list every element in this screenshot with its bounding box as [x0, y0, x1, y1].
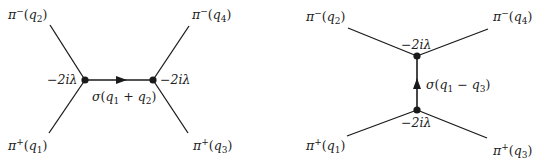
s-channel-diagram: π−(q2) π−(q4) π+(q1) π+(q3) −2iλ −2iλ σ(… — [7, 6, 232, 155]
label-pi-minus-q2: π−(q2) — [7, 6, 47, 24]
vertex-factor-right: −2iλ — [160, 72, 190, 87]
line-pi-plus-q3 — [153, 80, 188, 133]
label-pi-minus-q2: π−(q2) — [305, 8, 345, 26]
vertex-dot — [413, 106, 420, 113]
vertex-dot — [413, 52, 420, 59]
propagator-label: σ(q1 − q3) — [426, 77, 490, 94]
arrow-icon — [413, 78, 421, 89]
line-pi-plus-q1 — [49, 80, 85, 133]
t-channel-diagram: π−(q2) π−(q4) π+(q1) π+(q3) −2iλ −2iλ σ(… — [305, 8, 532, 160]
vertex-factor-bottom: −2iλ — [401, 115, 431, 130]
label-pi-plus-q3: π+(q3) — [192, 137, 232, 155]
label-pi-plus-q1: π+(q1) — [7, 137, 47, 155]
label-pi-plus-q3: π+(q3) — [492, 142, 532, 160]
vertex-factor-left: −2iλ — [47, 72, 77, 87]
vertex-dot — [81, 76, 88, 83]
arrow-icon — [116, 76, 127, 84]
label-pi-minus-q4: π−(q4) — [191, 6, 231, 24]
vertex-factor-top: −2iλ — [401, 37, 431, 52]
propagator-label: σ(q1 + q2) — [92, 89, 156, 106]
vertex-dot — [149, 76, 156, 83]
label-pi-minus-q4: π−(q4) — [492, 8, 532, 26]
feynman-diagrams: π−(q2) π−(q4) π+(q1) π+(q3) −2iλ −2iλ σ(… — [0, 0, 534, 163]
label-pi-plus-q1: π+(q1) — [305, 137, 345, 155]
